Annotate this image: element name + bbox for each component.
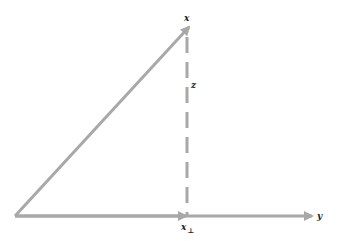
- vector-diagram: x z y x⊥: [0, 0, 340, 241]
- z-label: z: [190, 80, 197, 90]
- x-vector-line: [15, 27, 189, 216]
- y-label: y: [316, 211, 323, 221]
- x-label: x: [183, 13, 190, 23]
- x-perp-label: x⊥: [180, 222, 194, 235]
